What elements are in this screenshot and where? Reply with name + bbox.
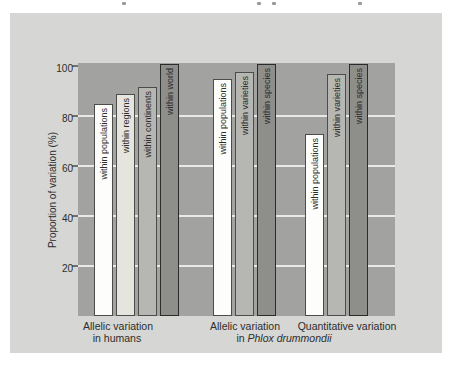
cropped-text-fragment-4 <box>358 2 362 5</box>
bar-within-populations: within populations <box>94 104 113 316</box>
bar-label: within varieties <box>240 76 250 135</box>
y-tick-label-80: 80 <box>43 113 73 125</box>
bar-label: within species <box>262 68 272 124</box>
chart-panel: Proportion of variation (%) within popul… <box>10 13 442 353</box>
x-axis-label-line2-phlox: in Phlox drummondii <box>184 332 384 344</box>
bar-label: within regions <box>121 98 131 153</box>
species-name-italic: Phlox drummondii <box>248 332 332 344</box>
bar-label: within continents <box>143 91 153 158</box>
bar-within-populations: within populations <box>305 134 324 316</box>
bar-group-2: within populationswithin varietieswithin… <box>213 64 276 316</box>
bar-within-species: within species <box>257 64 276 316</box>
figure-page: Proportion of variation (%) within popul… <box>0 0 451 371</box>
bar-label: within populations <box>218 83 228 155</box>
cropped-text-fragment-2 <box>257 2 261 5</box>
bar-label: within species <box>354 68 364 124</box>
bar-label: within populations <box>310 138 320 210</box>
bar-label: within varieties <box>332 78 342 137</box>
x-axis-label-line1-3: Quantitative variation <box>247 320 447 332</box>
y-tick-label-20: 20 <box>43 263 73 275</box>
bar-within-species: within species <box>349 64 368 316</box>
bar-group-3: within populationswithin varietieswithin… <box>305 64 368 316</box>
plot-area: within populationswithin regionswithin c… <box>78 63 395 316</box>
bar-within-varieties: within varieties <box>327 74 346 316</box>
bar-within-continents: within continents <box>138 87 157 317</box>
bar-label: within world <box>165 68 175 115</box>
bar-within-populations: within populations <box>213 79 232 316</box>
cropped-text-fragment-1 <box>122 2 126 5</box>
y-tick-label-60: 60 <box>43 163 73 175</box>
bar-within-varieties: within varieties <box>235 72 254 317</box>
bar-within-regions: within regions <box>116 94 135 316</box>
bar-label: within populations <box>99 108 109 180</box>
y-tick-label-40: 40 <box>43 213 73 225</box>
bar-within-world: within world <box>160 64 179 316</box>
cropped-text-fragment-3 <box>272 2 276 5</box>
y-tick-label-100: 100 <box>43 63 73 75</box>
bar-group-1: within populationswithin regionswithin c… <box>94 64 179 316</box>
